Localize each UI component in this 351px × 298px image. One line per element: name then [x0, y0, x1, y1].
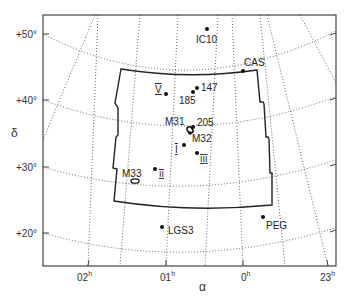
dec-line-50 — [43, 26, 345, 70]
ra-line-0200 — [43, 15, 95, 140]
x-tick-23h: 23h — [320, 270, 335, 283]
label-ii: II — [159, 169, 164, 179]
marker-cas — [241, 69, 245, 73]
ra-line-02h — [88, 15, 98, 266]
y-tick-40: +40° — [16, 95, 37, 106]
y-tick-50: +50° — [16, 29, 37, 40]
x-tick-0h: 0h — [241, 270, 251, 283]
x-tick-02h: 02h — [77, 270, 92, 283]
y-tick-20: +20° — [16, 228, 37, 239]
marker-iii — [195, 151, 199, 155]
marker-ii — [153, 167, 157, 171]
ra-line-0130 — [120, 15, 140, 266]
marker-147 — [195, 86, 199, 90]
marker-peg — [261, 215, 265, 219]
ra-line-2230 — [300, 15, 345, 100]
label-lgs3: LGS3 — [168, 225, 194, 236]
dec-line-30 — [43, 157, 345, 186]
label-147: 147 — [201, 82, 218, 93]
x-axis-label: α — [199, 280, 206, 294]
label-m31: M31 — [165, 116, 185, 127]
y-axis-label: δ — [11, 126, 18, 140]
label-iii: III — [200, 154, 208, 164]
label-205: 205 — [197, 117, 214, 128]
label-m33: M33 — [122, 168, 142, 179]
label-ic10: IC10 — [196, 34, 218, 45]
marker-v — [164, 92, 168, 96]
marker-m33 — [131, 179, 139, 183]
x-tick-01h: 01h — [160, 270, 175, 283]
dec-line-60 — [43, 0, 345, 8]
marker-ic10 — [205, 27, 209, 31]
marker-185 — [191, 90, 195, 94]
label-185: 185 — [179, 95, 196, 106]
label-cas: CAS — [244, 57, 265, 68]
label-v: V — [155, 84, 162, 95]
x-axis: 02h 01h 0h 23h α — [77, 260, 335, 294]
marker-i — [182, 143, 186, 147]
label-m32: M32 — [192, 133, 212, 144]
y-tick-30: +30° — [16, 162, 37, 173]
ra-line-0230 — [25, 140, 40, 266]
ra-line-0h — [232, 15, 243, 266]
label-peg: PEG — [266, 220, 287, 231]
sky-map-chart: +50° +40° +30° +20° δ 02h 01h 0h 23h α I… — [0, 0, 351, 298]
marker-lgs3 — [160, 225, 164, 229]
dec-line-20 — [43, 225, 345, 252]
label-i: I — [175, 144, 178, 155]
